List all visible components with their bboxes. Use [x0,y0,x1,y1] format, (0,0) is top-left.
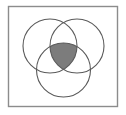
venn-figure: Three-circle Venn diagram with triple in… [0,0,126,115]
venn-diagram-svg: Three-circle Venn diagram with triple in… [0,0,126,115]
